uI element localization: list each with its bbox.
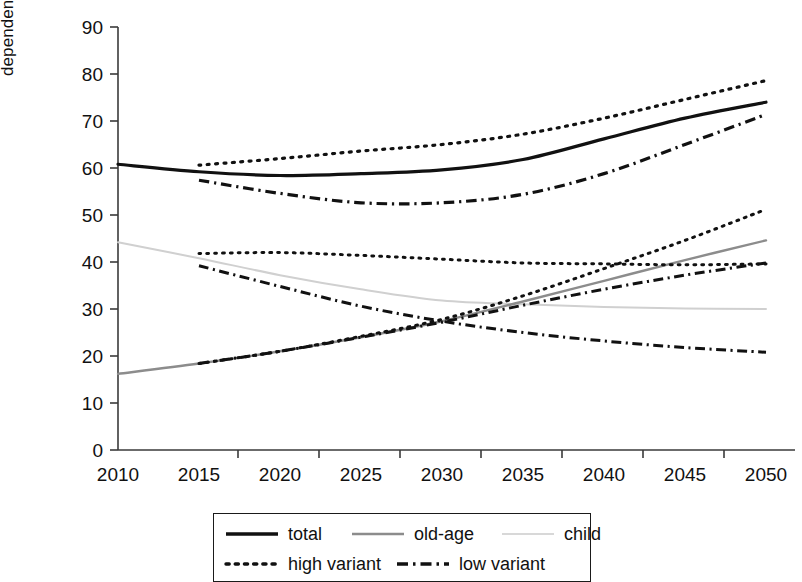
chart-plot-area: dependency ratio 01020304050607080902010… xyxy=(0,0,802,500)
legend-swatch-total xyxy=(224,527,280,541)
legend-swatch-high-variant xyxy=(224,557,280,571)
legend-label-total: total xyxy=(288,524,322,545)
legend-label-child: child xyxy=(564,524,601,545)
legend-row-2: high variant low variant xyxy=(214,549,590,579)
legend-swatch-child xyxy=(500,527,556,541)
x-axis-tick-label: 2050 xyxy=(745,464,787,485)
x-axis-tick-label: 2035 xyxy=(502,464,544,485)
legend-item-total[interactable]: total xyxy=(224,524,322,545)
legend-label-old-age: old-age xyxy=(414,524,474,545)
chart-page: dependency ratio 01020304050607080902010… xyxy=(0,0,802,582)
line-chart: 0102030405060708090201020152020202520302… xyxy=(0,0,802,500)
legend-swatch-low-variant xyxy=(395,557,451,571)
legend-swatch-old-age xyxy=(350,527,406,541)
y-axis-tick-label: 80 xyxy=(82,64,103,85)
x-axis-tick-label: 2045 xyxy=(664,464,706,485)
legend-item-child[interactable]: child xyxy=(500,524,601,545)
x-axis-tick-label: 2010 xyxy=(97,464,139,485)
legend-label-high-variant: high variant xyxy=(288,554,381,575)
legend-item-high-variant[interactable]: high variant xyxy=(224,554,381,575)
legend-item-low-variant[interactable]: low variant xyxy=(395,554,545,575)
x-axis-tick-label: 2015 xyxy=(178,464,220,485)
y-axis-tick-label: 40 xyxy=(82,252,103,273)
x-axis-tick-label: 2025 xyxy=(340,464,382,485)
legend-row-1: total old-age child xyxy=(214,519,590,549)
x-axis-tick-label: 2020 xyxy=(259,464,301,485)
y-axis-tick-label: 0 xyxy=(92,440,103,461)
y-axis-tick-label: 20 xyxy=(82,346,103,367)
y-axis-tick-label: 30 xyxy=(82,299,103,320)
y-axis-tick-label: 90 xyxy=(82,17,103,38)
x-axis-tick-label: 2040 xyxy=(583,464,625,485)
legend-label-low-variant: low variant xyxy=(459,554,545,575)
y-axis-tick-label: 10 xyxy=(82,393,103,414)
y-axis-tick-label: 50 xyxy=(82,205,103,226)
chart-legend: total old-age child high variant low var… xyxy=(213,513,591,582)
y-axis-tick-label: 60 xyxy=(82,158,103,179)
x-axis-tick-label: 2030 xyxy=(421,464,463,485)
legend-item-old-age[interactable]: old-age xyxy=(350,524,474,545)
series-line-child-high-variant xyxy=(199,253,766,265)
y-axis-tick-label: 70 xyxy=(82,111,103,132)
y-axis-label: dependency ratio xyxy=(0,0,18,120)
series-line-total-high-variant xyxy=(199,81,766,166)
